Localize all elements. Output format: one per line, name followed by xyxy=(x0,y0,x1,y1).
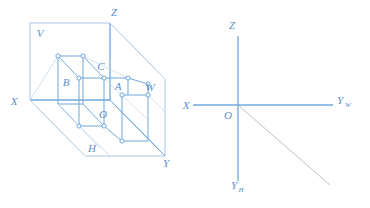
label-axis-yh-subscript: H xyxy=(237,186,244,194)
label-origin-o-right: O xyxy=(224,109,232,121)
projection-figure: V H W X Y Z A B C O X Z Y W Y H xyxy=(0,0,370,208)
bisector-group xyxy=(238,105,330,185)
label-axis-x-right: X xyxy=(182,99,191,111)
label-axis-yw-base: Y xyxy=(337,94,345,106)
label-axis-yw: Y W xyxy=(337,94,352,109)
right-unfolded-axes-svg: X Z Y W Y H O xyxy=(0,0,370,208)
label-axis-yh: Y H xyxy=(231,179,245,194)
label-axis-z-right: Z xyxy=(229,19,236,31)
unfolded-axis-lines xyxy=(193,36,333,181)
label-axis-yw-subscript: W xyxy=(345,101,352,109)
forty-five-degree-bisector-line xyxy=(238,105,330,185)
